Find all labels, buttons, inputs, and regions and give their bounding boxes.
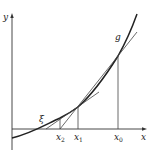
x-axis-arrow-icon: [142, 127, 147, 130]
newton-method-diagram: y x g ξ x2 x1 x0: [0, 0, 155, 160]
tick-label-x2: x2: [56, 132, 65, 143]
curve-label-g: g: [115, 32, 121, 42]
y-axis-label: y: [2, 12, 9, 22]
svg-text:x1: x1: [74, 132, 83, 143]
svg-text:x0: x0: [114, 132, 123, 143]
root-label-xi: ξ: [39, 114, 45, 124]
tick-label-x1: x1: [74, 132, 83, 143]
x-axis-label: x: [141, 132, 146, 142]
tangent-at-x1: [46, 92, 99, 129]
svg-text:x2: x2: [56, 132, 65, 143]
tangent-at-x0: [60, 32, 137, 129]
tick-label-x0: x0: [114, 132, 123, 143]
y-axis-arrow-icon: [10, 13, 13, 18]
